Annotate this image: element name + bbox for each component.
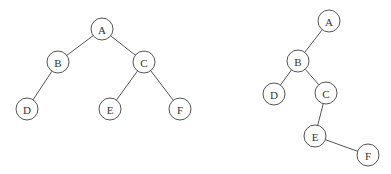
edge-b-d — [280, 70, 291, 85]
node-label: B — [54, 57, 61, 69]
edge-c-e — [318, 104, 324, 126]
node-label: C — [322, 88, 329, 100]
edge-a-b — [67, 36, 93, 56]
node-d: D — [16, 98, 38, 120]
edge-b-d — [33, 71, 52, 100]
edge-a-b — [305, 30, 323, 53]
tree-right-nodes: ABDCEF — [263, 10, 379, 166]
edge-c-f — [151, 71, 174, 101]
tree-left-nodes: ABCDEF — [16, 18, 191, 120]
node-label: F — [177, 104, 183, 116]
node-label: A — [325, 16, 333, 28]
node-b: B — [47, 51, 69, 73]
node-a: A — [318, 10, 340, 32]
node-e: E — [304, 125, 326, 147]
edge-e-f — [325, 140, 357, 152]
node-c: C — [315, 82, 337, 104]
node-f: F — [357, 144, 379, 166]
node-a: A — [91, 18, 113, 40]
tree-diagram-canvas: ABCDEF ABDCEF — [0, 0, 391, 174]
node-e: E — [99, 98, 121, 120]
node-label: E — [107, 104, 114, 116]
node-label: D — [23, 104, 31, 116]
node-label: C — [140, 57, 147, 69]
node-d: D — [263, 83, 285, 105]
node-b: B — [287, 50, 309, 72]
node-c: C — [133, 51, 155, 73]
node-label: F — [365, 150, 371, 162]
edge-b-c — [305, 69, 319, 84]
node-f: F — [169, 98, 191, 120]
node-label: B — [294, 56, 301, 68]
node-label: A — [98, 24, 106, 36]
edge-c-e — [116, 71, 137, 100]
node-label: D — [270, 89, 278, 101]
node-label: E — [312, 131, 319, 143]
binary-tree-left: ABCDEF — [16, 18, 191, 120]
edge-a-c — [111, 36, 136, 55]
binary-tree-right: ABDCEF — [263, 10, 379, 166]
